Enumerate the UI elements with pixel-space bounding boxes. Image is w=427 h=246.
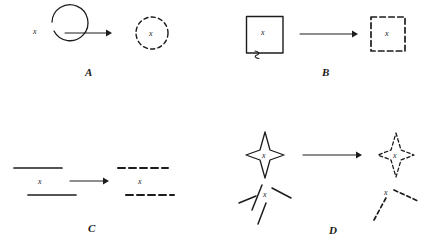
panel-label-d: D xyxy=(329,224,337,236)
x-label-dashed-square: x xyxy=(385,30,389,38)
transform-arrow-d xyxy=(303,151,362,158)
transform-arrow-b xyxy=(300,31,358,38)
solid-fragment-3 xyxy=(272,188,291,198)
squiggle-artifact xyxy=(255,51,259,59)
x-label-solid-star: x xyxy=(262,152,266,160)
panel-label-b: B xyxy=(322,66,330,78)
x-label-dashed-fragments: x xyxy=(384,189,388,197)
dashed-fragment-2 xyxy=(394,190,418,201)
dashed-fragment-1 xyxy=(374,196,387,220)
x-label-dashed-star: x xyxy=(393,152,397,160)
figure-canvas: x x A x x B xyxy=(0,0,427,246)
x-label-solid-fragments: x xyxy=(263,191,267,199)
solid-fragment-2 xyxy=(239,196,256,203)
solid-fragment-4 xyxy=(258,203,266,224)
x-label-solid-square: x xyxy=(261,29,265,37)
